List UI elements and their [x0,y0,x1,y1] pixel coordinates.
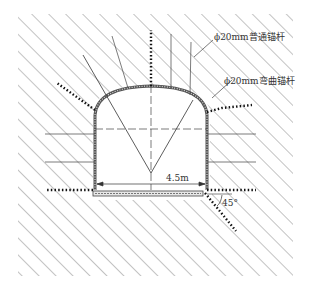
angle-label: 45° [222,198,238,208]
normal-bolt-label: ϕ20mm普通锚杆 [214,30,285,43]
diagram-canvas [0,0,310,291]
curved-bolt-label: ϕ20mm弯曲锚杆 [224,74,295,87]
width-label: 4.5m [166,173,189,183]
tunnel-diagram: ϕ20mm普通锚杆 ϕ20mm弯曲锚杆 4.5m 45° [0,0,310,291]
